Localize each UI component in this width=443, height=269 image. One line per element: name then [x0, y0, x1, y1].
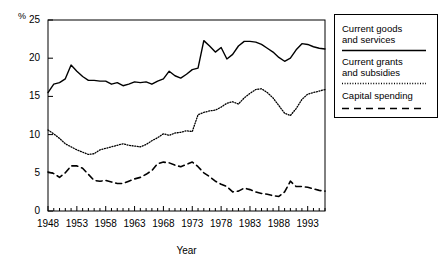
x-tick-label-1993: 1993: [291, 218, 325, 229]
legend-swatch-dashed: [342, 106, 426, 111]
y-tick-label-10: 10: [18, 129, 40, 140]
y-tick-label-25: 25: [18, 14, 40, 25]
legend-label-2-line1: Capital spending: [342, 90, 432, 101]
legend-label-1-line2: and subsidies: [342, 67, 432, 78]
legend-label-0-line2: and services: [342, 34, 432, 45]
x-axis-title: Year: [157, 245, 217, 256]
legend-label-1-line1: Current grants: [342, 56, 432, 67]
y-tick-label-0: 0: [18, 205, 40, 216]
legend-swatch-solid: [342, 48, 426, 53]
y-tick-label-15: 15: [18, 90, 40, 101]
legend-label-0-line1: Current goods: [342, 23, 432, 34]
legend-swatch-dotted: [342, 81, 426, 86]
plot-frame: [48, 20, 325, 211]
y-tick-label-20: 20: [18, 52, 40, 63]
series-line-1: [48, 89, 325, 155]
chart-legend: Current goods and services Current grant…: [334, 14, 438, 118]
y-tick-label-5: 5: [18, 167, 40, 178]
series-line-2: [48, 162, 325, 196]
chart-figure: % Year Current goods and services Curren…: [0, 0, 443, 269]
series-line-0: [48, 41, 325, 93]
